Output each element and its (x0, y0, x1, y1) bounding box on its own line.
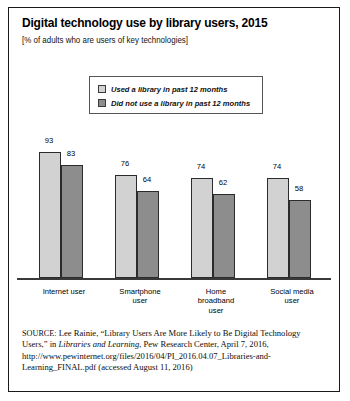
category-line-2: user (102, 296, 178, 305)
bar-group-smartphone-user: 76 64 (115, 126, 175, 278)
category-line-2: user (254, 296, 330, 305)
bar-value-internet-notused: 83 (58, 149, 84, 158)
source-prefix: SOURCE: (22, 329, 57, 338)
bar-value-social-used: 74 (264, 162, 290, 171)
bar-smartphone-used (115, 175, 137, 278)
bar-group-internet-user: 93 83 (39, 126, 99, 278)
bar-value-smartphone-notused: 64 (134, 175, 160, 184)
bar-value-broadband-notused: 62 (210, 178, 236, 187)
bar-social-notused (289, 200, 311, 278)
bar-internet-used (39, 152, 61, 278)
source-citation: SOURCE: Lee Rainie, “Library Users Are M… (22, 328, 322, 374)
bar-smartphone-notused (137, 191, 159, 278)
page-title: Digital technology use by library users,… (22, 16, 267, 30)
category-label-home-broadband-user: Home broadband user (178, 287, 254, 315)
category-label-internet-user: Internet user (26, 287, 102, 296)
bar-social-used (267, 178, 289, 278)
bar-broadband-used (191, 178, 213, 278)
bar-broadband-notused (213, 194, 235, 278)
category-line-1: Internet user (26, 287, 102, 296)
category-line-1: Social media (254, 287, 330, 296)
category-line-1: Smartphone (102, 287, 178, 296)
category-line-2: broadband (178, 296, 254, 305)
legend-item-did-not-use-library: Did not use a library in past 12 months (98, 96, 262, 110)
figure-frame: Digital technology use by library users,… (8, 7, 340, 392)
category-label-social-media-user: Social media user (254, 287, 330, 306)
bar-value-broadband-used: 74 (188, 162, 214, 171)
bar-value-social-notused: 58 (286, 184, 312, 193)
legend-item-used-library: Used a library in past 12 months (98, 82, 262, 96)
chart-subtitle: [% of adults who are users of key techno… (22, 36, 188, 45)
category-label-smartphone-user: Smartphone user (102, 287, 178, 306)
bar-chart-plot-area: 93 83 76 64 74 62 74 58 (23, 126, 329, 278)
chart-legend: Used a library in past 12 months Did not… (89, 76, 263, 114)
legend-label-used-library: Used a library in past 12 months (111, 85, 227, 94)
bar-group-home-broadband-user: 74 62 (191, 126, 251, 278)
x-axis-category-labels: Internet user Smartphone user Home broad… (23, 283, 329, 325)
bar-group-social-media-user: 74 58 (267, 126, 327, 278)
bar-internet-notused (61, 165, 83, 278)
source-publication-title: Libraries and Learning (59, 339, 140, 349)
x-axis-line (17, 278, 331, 280)
bar-value-internet-used: 93 (36, 136, 62, 145)
legend-swatch-dark (98, 99, 106, 107)
category-line-3: user (178, 306, 254, 315)
legend-label-did-not-use-library: Did not use a library in past 12 months (111, 99, 250, 108)
legend-swatch-light (98, 85, 106, 93)
category-line-1: Home (178, 287, 254, 296)
bar-value-smartphone-used: 76 (112, 159, 138, 168)
